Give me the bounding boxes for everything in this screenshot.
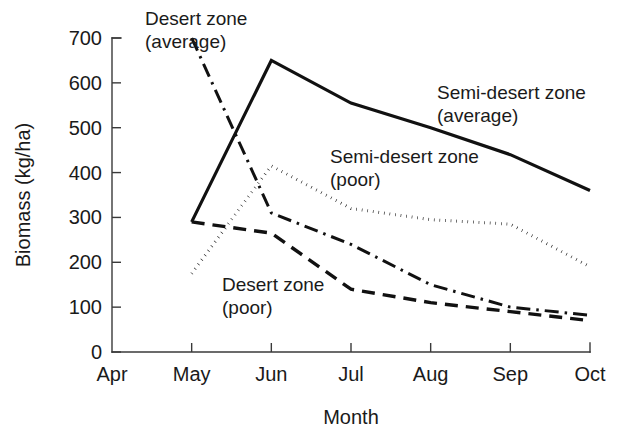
annotation-semi-desert-poor-line2: (poor) — [330, 169, 381, 190]
series-line-dotted — [192, 166, 590, 274]
x-tick-label: Aug — [413, 363, 449, 385]
annotation-desert-poor: Desert zone (poor) — [222, 274, 324, 318]
annotation-semi-desert-average: Semi-desert zone (average) — [437, 82, 586, 126]
y-tick-label: 600 — [69, 72, 102, 94]
y-tick-label: 700 — [69, 27, 102, 49]
x-tick-label: Sep — [493, 363, 529, 385]
annotation-desert-poor-line1: Desert zone — [222, 274, 324, 295]
annotation-semi-desert-average-line1: Semi-desert zone — [437, 82, 586, 103]
chart-container: 0100200300400500600700 AprMayJunJulAugSe… — [0, 0, 641, 436]
y-tick-label: 100 — [69, 296, 102, 318]
y-tick-label: 200 — [69, 251, 102, 273]
y-tick-label: 500 — [69, 117, 102, 139]
y-tick-label: 0 — [91, 341, 102, 363]
x-tick-label: Oct — [574, 363, 606, 385]
x-tick-label: Jul — [338, 363, 364, 385]
annotation-desert-average-line2: (average) — [145, 31, 226, 52]
y-tick-label: 400 — [69, 162, 102, 184]
annotation-desert-poor-line2: (poor) — [222, 297, 273, 318]
y-tick-label: 300 — [69, 206, 102, 228]
annotation-semi-desert-average-line2: (average) — [437, 105, 518, 126]
x-tick-label: Apr — [96, 363, 127, 385]
annotation-desert-average-line1: Desert zone — [145, 8, 247, 29]
annotation-semi-desert-poor: Semi-desert zone (poor) — [330, 146, 479, 190]
y-axis-ticks: 0100200300400500600700 — [69, 27, 121, 363]
annotation-semi-desert-poor-line1: Semi-desert zone — [330, 146, 479, 167]
annotation-desert-average: Desert zone (average) — [145, 8, 247, 52]
x-tick-label: Jun — [255, 363, 287, 385]
biomass-line-chart: 0100200300400500600700 AprMayJunJulAugSe… — [0, 0, 641, 436]
x-tick-label: May — [173, 363, 211, 385]
x-axis-title: Month — [323, 406, 379, 428]
x-axis-ticks: AprMayJunJulAugSepOct — [96, 343, 606, 385]
y-axis-title: Biomass (kg/ha) — [12, 123, 34, 268]
